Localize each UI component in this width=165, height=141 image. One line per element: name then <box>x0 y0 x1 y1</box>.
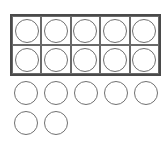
extra-counter <box>104 81 128 105</box>
frame-cell <box>100 16 129 45</box>
frame-cell <box>100 45 129 74</box>
frame-cell <box>12 16 41 45</box>
counter-circle <box>132 48 156 72</box>
frame-cell <box>71 16 100 45</box>
counter-circle <box>15 19 39 43</box>
counter-circle <box>15 48 39 72</box>
counter-circle <box>44 19 68 43</box>
frame-cell <box>41 16 70 45</box>
counter-circle <box>103 48 127 72</box>
frame-cell <box>130 45 159 74</box>
extra-counter <box>14 111 38 135</box>
frame-cell <box>71 45 100 74</box>
frame-cell <box>12 45 41 74</box>
extra-counter <box>134 81 158 105</box>
ten-frame <box>10 14 161 76</box>
extra-counter <box>74 81 98 105</box>
counter-circle <box>132 19 156 43</box>
counter-circle <box>103 19 127 43</box>
extra-counter <box>14 81 38 105</box>
frame-cell <box>41 45 70 74</box>
counter-circle <box>73 48 97 72</box>
extra-counter <box>44 81 68 105</box>
counter-circle <box>73 19 97 43</box>
counter-circle <box>44 48 68 72</box>
extra-counter <box>44 111 68 135</box>
frame-cell <box>130 16 159 45</box>
